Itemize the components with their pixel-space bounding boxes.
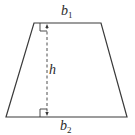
bottom-base-label: b2 xyxy=(60,119,72,135)
top-base-label: b1 xyxy=(61,4,73,20)
height-arrow-top-icon xyxy=(45,24,48,28)
trapezoid-diagram xyxy=(0,0,135,135)
height-arrow-bottom-icon xyxy=(45,112,48,116)
trapezoid-outline xyxy=(6,23,127,117)
height-label: h xyxy=(49,63,56,77)
